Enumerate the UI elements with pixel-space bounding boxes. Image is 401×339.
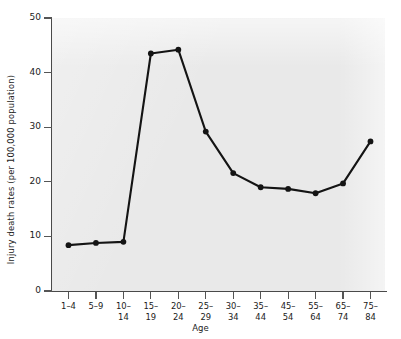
data-point-2: [121, 239, 127, 245]
data-point-4: [175, 47, 181, 53]
data-point-9: [313, 190, 319, 196]
data-point-7: [258, 184, 264, 190]
data-point-1: [93, 240, 99, 246]
data-point-11: [368, 139, 374, 145]
data-point-8: [285, 186, 291, 192]
x-axis-title: Age: [0, 323, 401, 333]
data-point-10: [340, 181, 346, 187]
data-point-5: [203, 129, 209, 135]
injury-death-rate-line-chart: Injury death rates (per 100,000 populati…: [0, 0, 401, 339]
data-series-layer: [0, 0, 401, 339]
data-point-0: [66, 242, 72, 248]
series-line: [69, 50, 371, 245]
data-point-6: [230, 170, 236, 176]
data-point-3: [148, 51, 154, 57]
